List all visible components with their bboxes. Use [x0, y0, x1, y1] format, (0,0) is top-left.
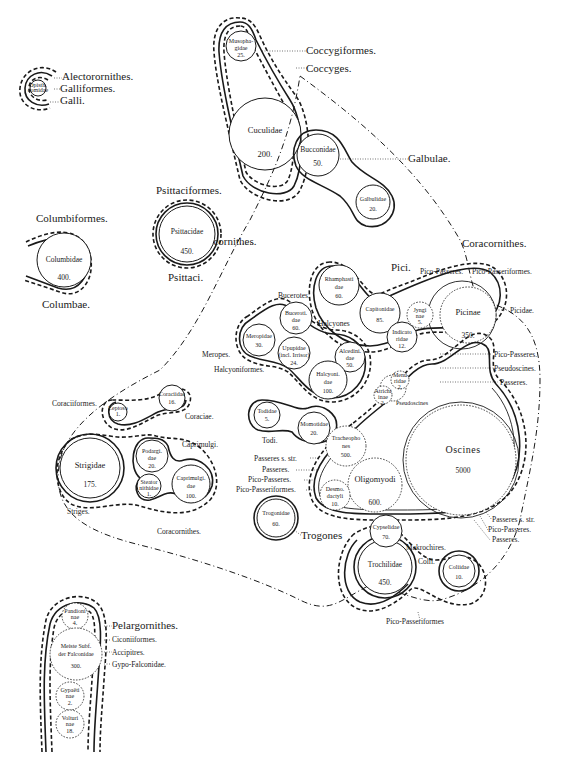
svg-text:Indicato: Indicato [392, 329, 412, 335]
cluster-macrochires: Trochilidae 450. Cypselidae 70. Coliidae… [338, 515, 485, 626]
label-striges: Striges. [67, 507, 90, 516]
svg-text:Meiste Subf.: Meiste Subf. [61, 643, 92, 649]
label-halcyones: Halcyones [318, 319, 350, 328]
label-columbiformes: Columbiformes. [36, 212, 108, 224]
label-galli: Galli. [60, 94, 85, 106]
circle-galbulidae [356, 185, 390, 219]
svg-text:175.: 175. [83, 480, 96, 489]
svg-text:Buceroti.: Buceroti. [285, 310, 308, 316]
circle-momotidae [298, 412, 330, 444]
label-pico-passeriformes-left: Pico-Passeriformes. [236, 485, 296, 494]
label-pico-passeres-top: Pico-Passeres. [420, 267, 463, 276]
label-caprimulgi: Caprimulgi. [182, 440, 218, 449]
label-pico-passeriformes-bottom: Pico-Passeriformes [386, 617, 444, 626]
svg-text:450.: 450. [180, 247, 193, 256]
cluster-halcyones: Meropidae 30. Buceroti. dae 60. Upupidae… [202, 291, 371, 402]
svg-text:dae: dae [346, 355, 355, 361]
label-pseudoscines-right: Pseudoscines. [494, 364, 536, 373]
svg-text:Todidae: Todidae [257, 408, 277, 414]
svg-text:der Falconidae: der Falconidae [58, 651, 94, 657]
cluster-galbulae: Bucconidae 50. Galbulidae 20. Galbulae. [294, 130, 451, 227]
svg-text:dae: dae [187, 483, 196, 489]
svg-text:dae: dae [324, 379, 333, 385]
svg-text:Oscines: Oscines [445, 444, 480, 455]
svg-text:20.: 20. [310, 430, 318, 436]
svg-text:20.: 20. [369, 206, 377, 212]
cluster-coraciae: Leptoso 1. Coraciidae 16. Strigidae 175.… [52, 385, 218, 536]
label-gypo-falconidae: Gypo-Falconidae. [112, 660, 166, 669]
svg-text:dactyli: dactyli [327, 493, 344, 499]
label-passeres-right: Passeres. [500, 378, 527, 387]
circle-bucconidae [297, 134, 339, 176]
svg-text:12.: 12. [398, 343, 406, 349]
svg-text:comidae: comidae [28, 87, 49, 93]
label-pici: Pici. [391, 261, 411, 273]
svg-text:dae: dae [148, 455, 157, 461]
svg-text:500.: 500. [341, 452, 352, 458]
svg-text:1.: 1. [147, 491, 152, 497]
circle-todidae [254, 402, 280, 428]
label-ciconiiformes: Ciconiiformes. [112, 635, 157, 644]
label-pico-passeres-right: Pico-Passeres. [494, 350, 537, 359]
label-coracornithes-right: Coracornithes. [462, 237, 527, 249]
label-passeres-left: Passeres. [262, 465, 289, 474]
svg-text:dae: dae [335, 284, 344, 290]
circle-trogonidae [257, 499, 295, 537]
svg-text:Coliidae: Coliidae [449, 564, 470, 570]
circle-cypselidae [370, 515, 402, 547]
svg-text:Trochilidae: Trochilidae [368, 560, 403, 569]
svg-text:5.: 5. [265, 416, 270, 422]
cluster-psittaci: Psittacidae 450. Psittaciformes. Psittac… [153, 184, 222, 283]
label-passeres-bottom: Passeres. [492, 535, 519, 544]
svg-text:Halcyoni.: Halcyoni. [316, 371, 340, 377]
svg-text:Trogonidae: Trogonidae [262, 510, 290, 516]
svg-text:dae: dae [292, 317, 301, 323]
label-picidae: Picidae. [510, 306, 534, 315]
label-pseudoscines-inner: Pseudoscines [396, 400, 429, 406]
classification-diagram: Opisth. comidae Alectorornithes. Gallifo… [0, 0, 564, 767]
svg-text:70.: 70. [382, 534, 390, 540]
svg-text:85.: 85. [376, 317, 384, 323]
label-meropes: Meropes. [202, 350, 230, 359]
svg-text:25.: 25. [237, 52, 245, 58]
svg-text:Picinae: Picinae [455, 307, 480, 317]
svg-text:Columbidae: Columbidae [46, 255, 83, 264]
svg-text:18.: 18. [66, 728, 74, 734]
svg-text:Coraciidae: Coraciidae [159, 391, 185, 397]
label-galliformes: Galliformes. [60, 82, 116, 94]
circle-coraciidae [159, 385, 185, 411]
cluster-galli: Opisth. comidae Alectorornithes. Gallifo… [20, 68, 134, 110]
circle-coliidae [443, 555, 475, 587]
label-passeres-s-str-right: Passeres s. str. [492, 515, 535, 524]
svg-text:gidae: gidae [235, 45, 248, 51]
svg-text:10.: 10. [455, 574, 463, 580]
label-makrochires: Makrochires. [406, 543, 446, 552]
svg-text:Oligomyodi: Oligomyodi [354, 474, 396, 484]
label-trogones: Trogones [301, 529, 342, 541]
svg-text:20.: 20. [148, 463, 156, 469]
label-columbae: Columbae. [42, 298, 90, 310]
svg-text:Bucconidae: Bucconidae [300, 145, 336, 154]
label-psittaciformes: Psittaciformes. [156, 184, 222, 196]
label-passeres-s-str-left: Passeres s. str. [254, 454, 297, 463]
svg-text:10.: 10. [331, 501, 339, 507]
svg-text:60.: 60. [292, 325, 300, 331]
svg-text:5.: 5. [418, 319, 423, 325]
svg-text:16.: 16. [168, 399, 176, 405]
label-accipitres: Accipitres. [112, 648, 145, 657]
label-pico-passeres-bottom: Pico-Passeres. [488, 525, 531, 534]
svg-text:nes: nes [342, 443, 351, 449]
cluster-todi: Todidae 5. Momotidae 20. Todi. [249, 400, 337, 445]
svg-text:100.: 100. [323, 388, 334, 394]
svg-text:nae: nae [66, 721, 75, 727]
svg-text:nae: nae [66, 693, 75, 699]
svg-text:50.: 50. [313, 159, 323, 168]
cluster-accipitres: Pandioni nae 4. Meiste Subf. der Falconi… [40, 597, 178, 752]
svg-text:2.: 2. [68, 700, 73, 706]
label-todi: Todi. [262, 436, 278, 445]
svg-text:100.: 100. [186, 493, 197, 499]
svg-text:600.: 600. [368, 498, 381, 507]
svg-text:Upupidae: Upupidae [282, 345, 306, 351]
svg-text:Podargi.: Podargi. [142, 448, 163, 454]
svg-text:450.: 450. [378, 578, 391, 587]
